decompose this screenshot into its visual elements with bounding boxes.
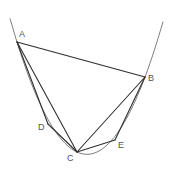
- parabola-diagram: ABCDE: [0, 0, 171, 169]
- point-label-c: C: [67, 153, 74, 163]
- point-labels: ABCDE: [19, 29, 154, 163]
- point-label-b: B: [148, 73, 154, 83]
- segment-ac: [17, 42, 77, 152]
- point-label-e: E: [118, 140, 124, 150]
- segment-be: [115, 77, 145, 140]
- point-label-d: D: [38, 122, 45, 132]
- segment-dc: [48, 124, 77, 152]
- segment-ab: [17, 42, 145, 77]
- chord-segments: [17, 42, 145, 152]
- segment-ad: [17, 42, 48, 124]
- point-label-a: A: [19, 29, 25, 39]
